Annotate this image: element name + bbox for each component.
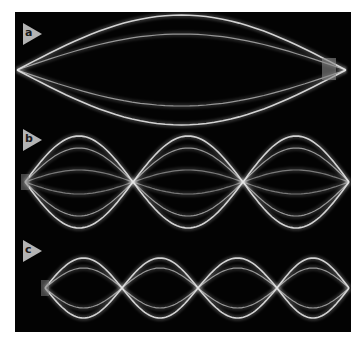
wave-panel-c [41,258,349,318]
wave-panel-a [13,15,346,125]
wave-panel-b [21,136,349,228]
standing-wave-traces [0,0,361,354]
panel-label-b: b [23,129,42,151]
string-clamp-left [41,280,49,296]
panel-label-c: c [23,240,42,262]
string-clamp-left [21,174,29,190]
string-driver-right [322,58,336,80]
panel-label-a: a [23,23,42,45]
